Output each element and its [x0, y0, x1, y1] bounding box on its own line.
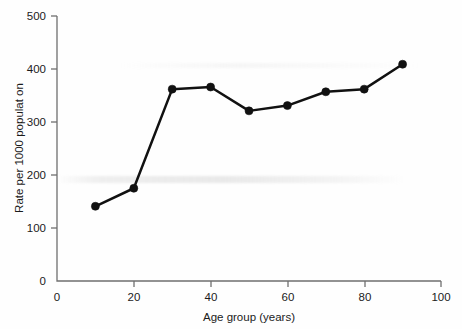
line-chart-plot: 500 400 300 200 100 0 0 20 40 60 80 100 … — [0, 0, 462, 329]
x-tick-label-60: 60 — [282, 291, 295, 303]
y-tick-label-100: 100 — [27, 222, 46, 234]
y-tick-label-400: 400 — [27, 63, 46, 75]
y-tick-label-200: 200 — [27, 169, 46, 181]
axis-spines — [57, 16, 441, 281]
data-point — [168, 85, 176, 93]
series-markers — [91, 60, 406, 210]
y-axis-tick-labels: 500 400 300 200 100 0 — [27, 10, 46, 287]
data-point — [245, 107, 253, 115]
y-axis-title: Rate per 1000 populat on — [13, 83, 25, 213]
data-point — [360, 85, 368, 93]
data-point — [322, 88, 330, 96]
data-point — [399, 60, 407, 68]
x-tick-label-80: 80 — [359, 291, 372, 303]
data-point — [283, 102, 291, 110]
chart-figure: 500 400 300 200 100 0 0 20 40 60 80 100 … — [0, 0, 462, 329]
x-tick-label-20: 20 — [128, 291, 141, 303]
series-line-rate — [95, 64, 402, 206]
x-axis-tick-labels: 0 20 40 60 80 100 — [54, 291, 451, 303]
data-point — [91, 202, 99, 210]
y-tick-label-0: 0 — [40, 275, 46, 287]
data-point — [130, 184, 138, 192]
y-tick-label-300: 300 — [27, 116, 46, 128]
x-tick-label-100: 100 — [431, 291, 450, 303]
y-axis-tickmarks — [51, 16, 57, 228]
x-axis-tickmarks — [134, 281, 441, 287]
y-tick-label-500: 500 — [27, 10, 46, 22]
x-tick-label-40: 40 — [205, 291, 218, 303]
data-point — [207, 83, 215, 91]
x-axis-title: Age group (years) — [203, 311, 295, 323]
x-tick-label-0: 0 — [54, 291, 60, 303]
